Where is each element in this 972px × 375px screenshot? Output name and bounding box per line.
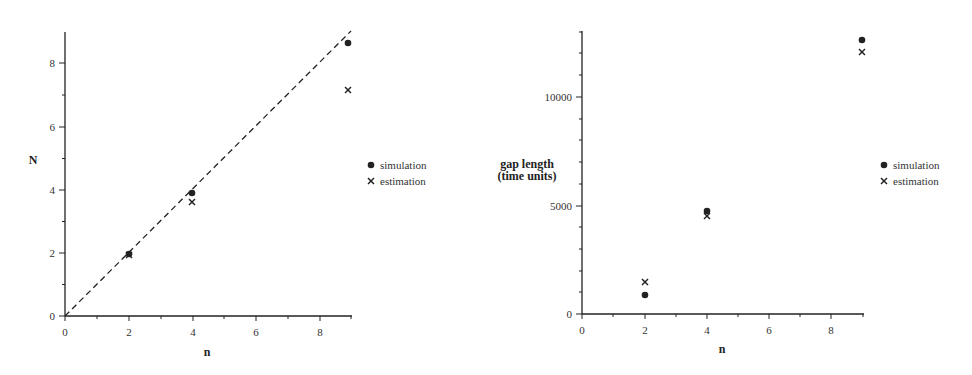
left-xtick-label: 0: [62, 326, 68, 338]
figure: 0 2 4 6 8 0 2 4 6 8 N n simulation: [0, 0, 972, 375]
legend-estimation-label: estimation: [893, 175, 939, 187]
legend-simulation-label: simulation: [893, 159, 940, 171]
left-xtick-label: 2: [126, 326, 132, 338]
left-xtick-label: 6: [253, 326, 259, 338]
legend-estimation-marker: [881, 178, 887, 184]
right-ytick-label: 5000: [550, 200, 573, 212]
right-x-axis-title: n: [719, 342, 726, 356]
left-ytick-label: 6: [50, 121, 56, 133]
right-estimation-point: [642, 279, 648, 285]
right-chart: 0 5000 10000 0 2 4 6 8 gap length (time …: [498, 31, 940, 356]
left-estimation-point: [189, 199, 195, 205]
left-y-ticks: [59, 63, 65, 316]
left-ytick-label: 4: [50, 184, 56, 196]
left-xtick-label: 8: [317, 326, 323, 338]
right-y-axis-title-line2: (time units): [498, 169, 557, 183]
left-chart: 0 2 4 6 8 0 2 4 6 8 N n simulation: [29, 31, 427, 359]
left-xtick-label: 4: [190, 326, 196, 338]
right-xtick-label: 0: [579, 324, 585, 336]
legend-estimation-label: estimation: [380, 175, 426, 187]
right-ytick-label: 0: [567, 308, 573, 320]
left-reference-line: [65, 31, 351, 316]
right-xtick-label: 4: [704, 324, 710, 336]
legend-simulation-marker: [368, 162, 375, 169]
left-legend: simulation estimation: [368, 159, 427, 187]
right-x-ticks: [582, 314, 863, 319]
left-estimation-point: [345, 87, 351, 93]
right-simulation-point: [642, 292, 649, 299]
right-xtick-label: 6: [766, 324, 772, 336]
legend-estimation-marker: [368, 178, 374, 184]
left-simulation-point: [189, 190, 196, 197]
left-simulation-point: [345, 40, 352, 47]
left-ytick-label: 8: [50, 57, 56, 69]
left-ytick-label: 0: [50, 310, 56, 322]
left-x-axis-title: n: [204, 345, 211, 359]
right-ytick-label: 10000: [545, 91, 573, 103]
left-y-axis-title: N: [29, 153, 38, 167]
right-simulation-point: [859, 37, 866, 44]
right-xtick-label: 2: [642, 324, 648, 336]
right-estimation-point: [859, 49, 865, 55]
right-legend: simulation estimation: [881, 159, 940, 187]
right-xtick-label: 8: [828, 324, 834, 336]
legend-simulation-label: simulation: [380, 159, 427, 171]
left-x-ticks: [65, 316, 351, 321]
right-y-ticks: [576, 32, 582, 314]
left-ytick-label: 2: [50, 247, 56, 259]
legend-simulation-marker: [881, 162, 888, 169]
